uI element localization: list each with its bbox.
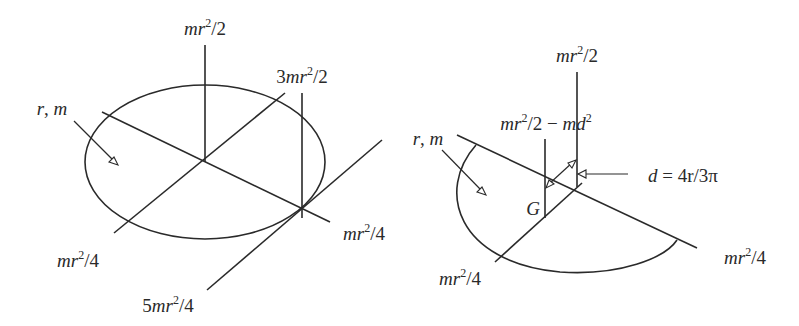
label-radius: r xyxy=(166,295,173,316)
label-denominator: /4 xyxy=(84,250,99,271)
disk-label-diameter-a: mr2/4 xyxy=(57,251,99,270)
half-disk-label-body: r, m xyxy=(413,129,444,148)
label-separator: , xyxy=(420,128,425,149)
half-disk-symmetry-axis xyxy=(495,183,582,262)
label-mass: m xyxy=(556,45,570,66)
disk-diameter-a xyxy=(114,93,285,233)
disk-diagram xyxy=(74,45,382,290)
diagram-canvas xyxy=(0,0,799,326)
half-disk-arc xyxy=(457,145,677,273)
label-coef: 3 xyxy=(276,66,286,87)
label-mass: m xyxy=(54,98,68,119)
centroid-label: G xyxy=(526,198,540,219)
label-denominator: /4 xyxy=(466,268,481,289)
disk-label-axial-edge: 3mr2/2 xyxy=(276,67,327,86)
label-offset-value: 4r/3π xyxy=(678,165,718,186)
label-denominator: /2 xyxy=(313,66,328,87)
half-disk-d-arrowhead-top xyxy=(568,160,576,168)
label-distance: d xyxy=(648,165,658,186)
label-mass: m xyxy=(57,250,71,271)
label-radius: r xyxy=(300,66,307,87)
half-disk-label-centroid: G xyxy=(526,199,540,218)
label-mass: m xyxy=(430,128,444,149)
label-equals: = xyxy=(658,165,678,186)
label-mass: m xyxy=(439,268,453,289)
half-disk-pointer-arrowhead xyxy=(477,187,486,195)
disk-pointer-arrowhead xyxy=(109,157,118,165)
half-disk-d-leader-arrowhead xyxy=(578,170,586,178)
label-denominator: /2 xyxy=(211,18,226,39)
label-exponent: 2 xyxy=(586,111,592,125)
half-disk-label-axial-center: mr2/2 xyxy=(556,46,598,65)
disk-tangent xyxy=(207,140,382,290)
label-coef: 5 xyxy=(142,295,152,316)
label-mass: m xyxy=(500,113,514,134)
disk-label-body: r, m xyxy=(37,99,68,118)
disk-label-diameter-b: mr2/4 xyxy=(343,224,385,243)
label-separator: , xyxy=(44,98,49,119)
label-denominator: /2 xyxy=(583,45,598,66)
label-distance: d xyxy=(576,113,586,134)
label-middle: /2 − xyxy=(527,113,562,134)
label-denominator: /4 xyxy=(370,223,385,244)
label-denominator: /4 xyxy=(179,295,194,316)
half-disk-label-axial-centroid: mr2/2 − md2 xyxy=(500,114,591,133)
label-mass: m xyxy=(343,223,357,244)
label-denominator: /4 xyxy=(751,247,766,268)
half-disk-label-offset: d = 4r/3π xyxy=(648,166,718,185)
half-disk-label-symmetry-axis: mr2/4 xyxy=(439,269,481,288)
label-mass: m xyxy=(724,247,738,268)
inertia-figure: mr2/2 3mr2/2 r, m mr2/4 mr2/4 5mr2/4 mr2… xyxy=(0,0,799,326)
disk-label-axial-center: mr2/2 xyxy=(184,19,226,38)
disk-label-tangent: 5mr2/4 xyxy=(142,296,193,315)
disk-pointer-line xyxy=(74,121,113,160)
label-mass: m xyxy=(562,113,576,134)
label-mass: m xyxy=(152,295,166,316)
half-disk-pointer-line xyxy=(442,150,481,190)
disk-diameter-b xyxy=(102,112,330,222)
half-disk-label-diameter-edge: mr2/4 xyxy=(724,248,766,267)
label-mass: m xyxy=(184,18,198,39)
label-mass: m xyxy=(286,66,300,87)
